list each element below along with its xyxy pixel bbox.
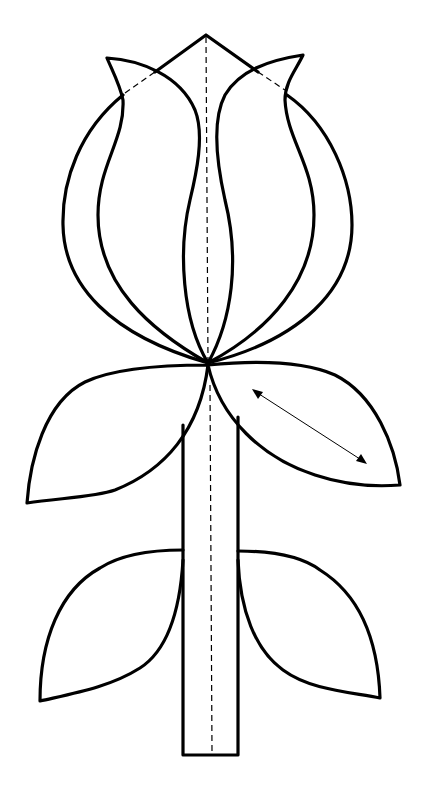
lower-left-leaf bbox=[40, 550, 183, 701]
arrowhead-end-icon bbox=[356, 454, 367, 464]
right-inner-petal bbox=[208, 55, 314, 363]
arrowhead-start-icon bbox=[252, 389, 263, 399]
upper-left-leaf bbox=[27, 365, 208, 503]
right-petal-fold-line bbox=[258, 72, 285, 90]
center-fold-line bbox=[206, 37, 208, 362]
stem bbox=[183, 385, 238, 755]
fold-lines-head bbox=[125, 37, 285, 362]
grain-arrow-line bbox=[256, 392, 363, 461]
left-petal-fold-line bbox=[125, 72, 155, 93]
lower-right-leaf bbox=[238, 551, 380, 698]
stem-fold-line bbox=[210, 385, 212, 752]
tulip-template-diagram bbox=[0, 0, 429, 785]
